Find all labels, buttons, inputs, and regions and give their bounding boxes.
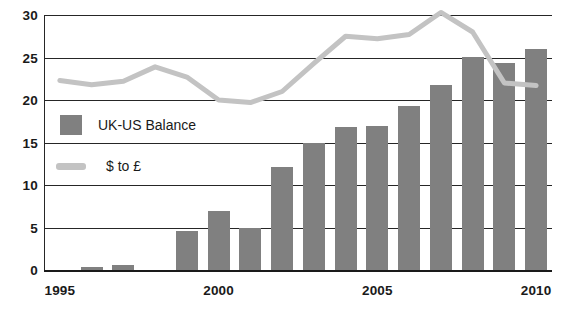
bar-2007 xyxy=(430,85,452,270)
y-axis-tick-25: 25 xyxy=(4,50,38,65)
bar-2006 xyxy=(398,106,420,270)
y-axis-tick-5: 5 xyxy=(4,220,38,235)
y-axis-tick-10: 10 xyxy=(4,178,38,193)
y-axis-tick-15: 15 xyxy=(4,135,38,150)
legend-label-dollar-to-pound: $ to £ xyxy=(106,158,141,174)
x-axis-tick-2005: 2005 xyxy=(362,283,393,298)
y-axis-line xyxy=(44,15,45,270)
y-axis-tick-0: 0 xyxy=(4,263,38,278)
y-axis-tick-20: 20 xyxy=(4,93,38,108)
x-axis-line xyxy=(44,270,552,272)
bar-2009 xyxy=(493,63,515,270)
x-axis-tick-2010: 2010 xyxy=(521,283,552,298)
bar-2003 xyxy=(303,143,325,270)
y-axis-tick-30: 30 xyxy=(4,8,38,23)
bar-2005 xyxy=(366,126,388,271)
chart-container: 30 25 20 15 10 5 0 1995200020052010 UK-U… xyxy=(0,0,570,318)
legend-item-uk-us-balance: UK-US Balance xyxy=(60,112,196,138)
y-axis-labels: 30 25 20 15 10 5 0 xyxy=(0,0,38,318)
legend-label-uk-us-balance: UK-US Balance xyxy=(98,117,196,133)
x-axis-tick-2000: 2000 xyxy=(203,283,234,298)
bar-2010 xyxy=(525,49,547,270)
bar-2008 xyxy=(462,57,484,270)
legend-item-dollar-to-pound: $ to £ xyxy=(60,153,196,179)
chart-legend: UK-US Balance $ to £ xyxy=(60,112,196,179)
bar-1999 xyxy=(176,231,198,270)
bar-2000 xyxy=(208,211,230,271)
bar-2002 xyxy=(271,167,293,270)
legend-bar-swatch-icon xyxy=(60,115,82,135)
bar-2001 xyxy=(239,228,261,271)
x-axis-tick-1995: 1995 xyxy=(44,283,75,298)
legend-line-swatch-icon xyxy=(56,163,86,170)
bar-2004 xyxy=(335,127,357,270)
